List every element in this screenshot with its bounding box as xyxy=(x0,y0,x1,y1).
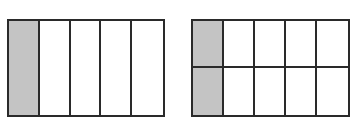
grid-cell xyxy=(317,21,348,68)
grid-cell xyxy=(286,21,317,68)
grid-cell xyxy=(224,21,255,68)
shaded-cell xyxy=(9,21,40,115)
shaded-cell xyxy=(193,68,224,115)
shaded-cell xyxy=(193,21,224,68)
grid-cell xyxy=(224,68,255,115)
grid-cell xyxy=(132,21,163,115)
fraction-grid-right xyxy=(191,19,350,117)
grid-cell xyxy=(101,21,132,115)
fraction-grid-left xyxy=(7,19,165,117)
grid-cell xyxy=(40,21,71,115)
grid-cell xyxy=(255,68,286,115)
grid-cell xyxy=(317,68,348,115)
grid-cell xyxy=(71,21,102,115)
grid-cell xyxy=(286,68,317,115)
grid-cell xyxy=(255,21,286,68)
